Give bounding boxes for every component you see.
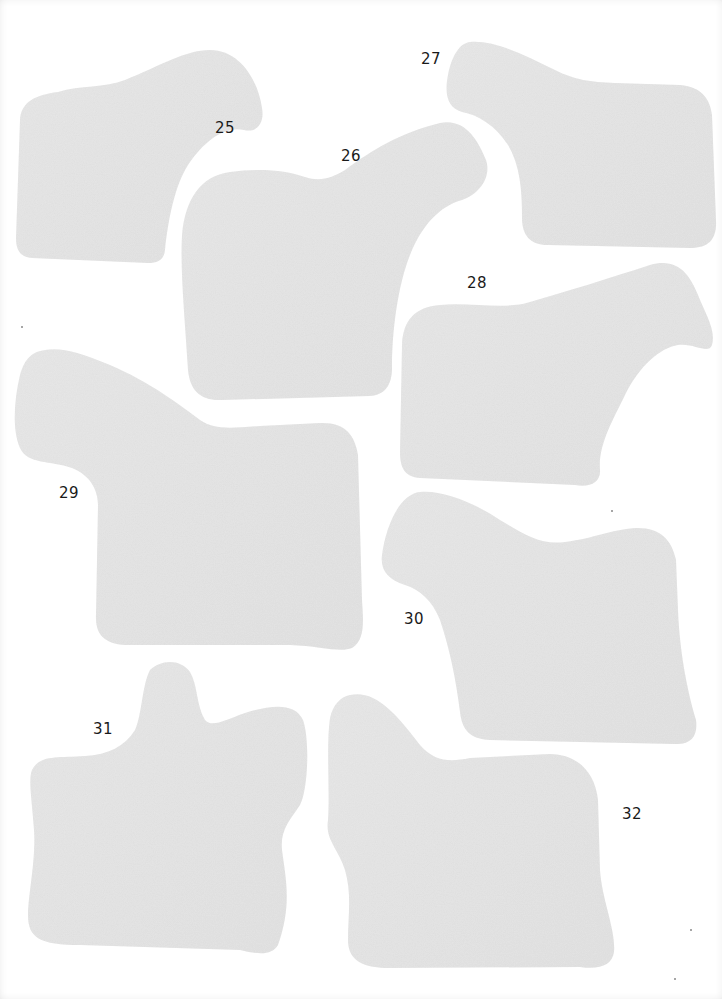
piece-number-27: 27 (421, 52, 441, 67)
felt-piece-28 (400, 263, 713, 486)
piece-number-29: 29 (59, 486, 79, 501)
piece-number-28: 28 (467, 276, 487, 291)
felt-piece-31 (28, 662, 307, 953)
piece-number-25: 25 (215, 121, 235, 136)
piece-number-26: 26 (341, 149, 361, 164)
felt-piece-30 (382, 492, 697, 744)
dust-speck (674, 978, 676, 980)
piece-number-31: 31 (93, 722, 113, 737)
dust-speck (690, 929, 692, 931)
piece-number-30: 30 (404, 612, 424, 627)
felt-piece-27 (447, 42, 717, 248)
dust-speck (21, 326, 23, 328)
dust-speck (611, 510, 613, 512)
piece-number-32: 32 (622, 807, 642, 822)
